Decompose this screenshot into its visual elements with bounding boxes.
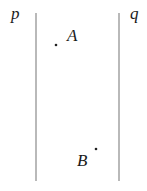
label-line-p: p [11,5,20,22]
label-line-q: q [130,5,139,22]
point-a [55,44,58,47]
diagram-canvas: p q A B [0,0,147,191]
label-point-a: A [67,27,77,44]
label-point-b: B [77,152,87,169]
point-b [95,148,98,151]
